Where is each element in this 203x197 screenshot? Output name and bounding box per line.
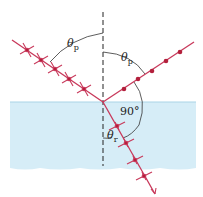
right-angle-label: 90° [120,105,140,118]
svg-text:θp: θp [121,51,133,66]
svg-text:θp: θp [67,37,79,52]
reflected-ray [103,42,194,102]
brewster-angle-diagram: θp θp 90° θr [0,0,203,197]
incident-ray [12,40,103,102]
reflected-angle-label: θp [121,51,133,66]
incident-angle-label: θp [67,37,79,52]
